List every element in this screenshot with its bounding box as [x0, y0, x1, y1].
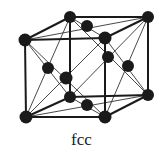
diagram-label: fcc — [0, 130, 163, 150]
atom-corner — [64, 91, 76, 103]
atom-face-left — [42, 62, 54, 74]
atom-face-back — [102, 51, 114, 63]
atom-corner — [142, 89, 154, 101]
atom-corner — [99, 32, 112, 45]
atom-face-top — [81, 20, 93, 32]
atom-face-front — [60, 72, 73, 85]
atoms — [19, 11, 155, 124]
atom-corner — [142, 11, 154, 23]
atom-face-bottom — [81, 99, 93, 111]
atom-corner — [19, 34, 32, 47]
atom-corner — [99, 111, 112, 124]
atom-corner — [64, 11, 76, 23]
atom-corner — [20, 111, 33, 124]
atom-face-right — [122, 60, 134, 72]
